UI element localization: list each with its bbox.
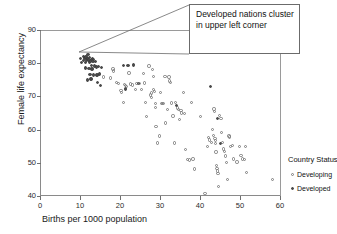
y-tick-label: 50 [16, 159, 36, 167]
data-point-developing [134, 88, 137, 91]
data-point-developing [193, 167, 196, 170]
y-tick-mark [37, 30, 41, 31]
data-point-developing [154, 102, 157, 105]
data-point-developing [190, 101, 193, 104]
data-point-developing [178, 118, 181, 121]
x-tick-mark [200, 196, 201, 200]
data-point-developing [219, 117, 222, 120]
data-point-developed [90, 67, 93, 70]
legend-item-developed[interactable]: Developed [288, 183, 337, 194]
data-point-developing [152, 75, 155, 78]
data-point-developing [238, 145, 241, 148]
data-point-developing [156, 141, 159, 144]
x-tick-label: 0 [30, 201, 50, 210]
legend-item-label: Developed [297, 185, 330, 192]
callout-annotation-box: Developed nations cluster in upper left … [189, 4, 300, 54]
data-point-developing [214, 150, 217, 153]
y-tick-mark [37, 96, 41, 97]
data-point-developing [154, 125, 157, 128]
data-point-developed [132, 63, 135, 66]
y-tick-mark [37, 130, 41, 131]
data-point-developing [150, 96, 153, 99]
data-point-developing [173, 141, 176, 144]
x-tick-label: 60 [270, 201, 290, 210]
data-point-developing [228, 135, 231, 138]
data-point-developing [143, 81, 146, 84]
x-tick-label: 30 [150, 201, 170, 210]
data-point-developing [147, 64, 150, 67]
data-point-developing [158, 134, 161, 137]
legend: Country Status DevelopingDeveloped [288, 155, 337, 197]
data-point-developing [203, 192, 206, 195]
data-point-developing [171, 114, 174, 117]
x-tick-mark [280, 196, 281, 200]
data-point-developing [164, 121, 167, 124]
data-point-developing [142, 72, 145, 75]
x-tick-mark [240, 196, 241, 200]
x-tick-label: 50 [230, 201, 250, 210]
callout-annotation-text: Developed nations cluster in upper left … [196, 9, 294, 31]
data-point-developing [112, 69, 115, 72]
x-tick-mark [120, 196, 121, 200]
data-point-developing [163, 75, 166, 78]
y-tick-mark [37, 163, 41, 164]
x-tick-mark [40, 196, 41, 200]
data-point-developing [170, 101, 173, 104]
plot-right-border [280, 30, 281, 196]
x-tick-mark [80, 196, 81, 200]
scatter-chart-screenshot: 405060708090 0102030405060 Developed nat… [0, 0, 337, 234]
y-tick-label: 40 [16, 192, 36, 200]
plot-area [40, 30, 280, 196]
x-tick-label: 20 [110, 201, 130, 210]
data-point-developing [191, 157, 194, 160]
data-point-developing [102, 75, 105, 78]
data-point-developing [182, 91, 185, 94]
data-point-developing [226, 178, 229, 181]
open-circle-icon [288, 173, 297, 176]
data-point-developing [235, 160, 238, 163]
data-point-developing [167, 75, 170, 78]
legend-title: Country Status [288, 155, 337, 164]
y-axis-title: Female life expectancy [16, 14, 26, 144]
data-point-developed [100, 66, 103, 69]
data-point-developing [144, 101, 147, 104]
legend-entries: DevelopingDeveloped [288, 169, 337, 194]
data-point-developing [127, 71, 130, 74]
data-point-developing [224, 154, 227, 157]
data-point-developing [145, 115, 148, 118]
data-point-developing [211, 128, 214, 131]
x-tick-label: 40 [190, 201, 210, 210]
y-tick-mark [37, 63, 41, 64]
legend-item-developing[interactable]: Developing [288, 169, 337, 180]
data-point-developing [109, 76, 112, 79]
x-tick-label: 10 [70, 201, 90, 210]
legend-item-label: Developing [297, 171, 332, 178]
filled-dot-icon [288, 187, 297, 190]
data-point-developed [126, 64, 129, 67]
data-point-developing [210, 141, 213, 144]
data-point-developing [131, 83, 134, 86]
x-tick-mark [160, 196, 161, 200]
x-axis-title: Births per 1000 population [42, 214, 147, 224]
data-point-developed [89, 77, 92, 80]
